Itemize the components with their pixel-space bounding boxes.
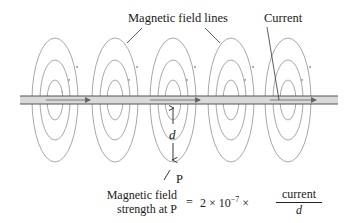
constant-exponent: −7 — [231, 195, 240, 204]
distance-arrow — [164, 108, 173, 180]
times-sign: × — [242, 196, 249, 210]
formula-lhs-line2: strength at P — [62, 202, 177, 216]
formula-equals: = — [186, 195, 193, 210]
field-lines-label: Magnetic field lines — [128, 12, 228, 25]
fraction-numerator: current — [276, 188, 322, 203]
leader-lines — [127, 27, 279, 100]
formula-constant: 2 × 10−7 × — [200, 195, 249, 211]
formula-fraction: current d — [276, 188, 322, 217]
formula-lhs-line1: Magnetic field — [62, 188, 177, 202]
formula-lhs: Magnetic field strength at P — [62, 188, 177, 216]
fraction-denominator: d — [276, 203, 322, 217]
constant-base: 2 × 10 — [200, 196, 231, 210]
distance-label: d — [169, 127, 176, 143]
current-label: Current — [264, 12, 302, 25]
point-p-label: P — [176, 173, 183, 186]
